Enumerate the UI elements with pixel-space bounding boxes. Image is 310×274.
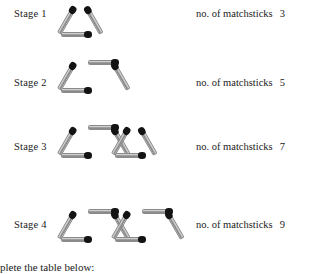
matchstick bbox=[57, 63, 75, 90]
count-value-1: 3 bbox=[280, 8, 285, 19]
matchstick-head-icon bbox=[138, 152, 145, 158]
count-caption: no. of matchsticks bbox=[196, 219, 273, 230]
count-value-4: 9 bbox=[280, 219, 285, 230]
count-caption: no. of matchsticks bbox=[196, 77, 273, 88]
bottom-instruction-text: plete the table below: bbox=[0, 261, 94, 273]
count-caption: no. of matchsticks bbox=[196, 8, 273, 19]
matchstick-count-label-2: no. of matchsticks5 bbox=[196, 77, 285, 88]
stage-label-2: Stage 2 bbox=[14, 77, 47, 88]
matchstick bbox=[57, 128, 75, 155]
matchstick bbox=[61, 237, 90, 242]
matchstick bbox=[115, 153, 144, 158]
matchstick-head-icon bbox=[84, 236, 91, 242]
matchstick-count-label-3: no. of matchsticks7 bbox=[196, 141, 285, 152]
stage-label-3: Stage 3 bbox=[14, 141, 47, 152]
matchstick bbox=[166, 212, 184, 239]
count-value-2: 5 bbox=[280, 77, 285, 88]
matchstick bbox=[61, 88, 90, 93]
matchstick bbox=[61, 32, 90, 37]
matchstick-count-label-4: no. of matchsticks9 bbox=[196, 219, 285, 230]
matchstick-count-label-1: no. of matchsticks3 bbox=[196, 8, 285, 19]
matchstick bbox=[115, 237, 144, 242]
matchstick-head-icon bbox=[84, 87, 91, 93]
matchstick-head-icon bbox=[84, 31, 91, 37]
worksheet-page: Stage 1no. of matchsticks3Stage 2no. of … bbox=[0, 0, 310, 274]
count-caption: no. of matchsticks bbox=[196, 141, 273, 152]
matchstick-head-icon bbox=[138, 236, 145, 242]
matchstick bbox=[112, 63, 130, 90]
stage-label-4: Stage 4 bbox=[14, 219, 47, 230]
matchstick bbox=[57, 7, 75, 34]
matchstick bbox=[57, 212, 75, 239]
matchstick bbox=[61, 153, 90, 158]
stage-label-1: Stage 1 bbox=[14, 8, 47, 19]
count-value-3: 7 bbox=[280, 141, 285, 152]
matchstick-head-icon bbox=[84, 152, 91, 158]
